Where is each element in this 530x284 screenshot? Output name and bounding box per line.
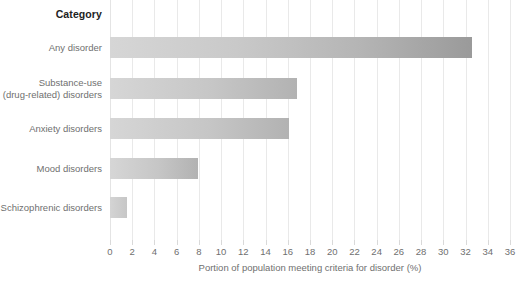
x-axis-tick xyxy=(199,240,200,245)
bar xyxy=(110,197,127,218)
x-axis-tick-label: 26 xyxy=(394,246,405,257)
x-axis-tick-label: 0 xyxy=(107,246,112,257)
y-axis-label-line: Anxiety disorders xyxy=(0,123,102,135)
x-axis-tick-label: 4 xyxy=(152,246,157,257)
x-axis-tick xyxy=(310,240,311,245)
x-axis-tick-label: 10 xyxy=(216,246,227,257)
y-axis-label-line: Mood disorders xyxy=(0,163,102,175)
y-axis-label-line: Substance-use xyxy=(0,77,102,89)
bar xyxy=(110,37,472,58)
x-axis-tick xyxy=(110,240,111,245)
x-axis-tick xyxy=(266,240,267,245)
x-axis-tick-label: 34 xyxy=(482,246,493,257)
x-axis-tick xyxy=(288,240,289,245)
y-axis-label: Any disorder xyxy=(0,42,102,54)
x-axis-tick xyxy=(443,240,444,245)
y-axis-label: Anxiety disorders xyxy=(0,123,102,135)
y-axis-category-labels: Any disorderSubstance-use(drug-related) … xyxy=(0,0,102,240)
x-axis-tick xyxy=(332,240,333,245)
x-axis-tick xyxy=(132,240,133,245)
x-axis-tick-labels: 024681012141618202224262830323436 xyxy=(0,246,530,260)
y-axis-label-line: (drug-related) disorders xyxy=(0,89,102,101)
x-axis-tick-label: 16 xyxy=(282,246,293,257)
x-axis-tick-label: 6 xyxy=(174,246,179,257)
x-axis-tick-label: 30 xyxy=(438,246,449,257)
bar xyxy=(110,118,289,139)
x-axis-tick-label: 28 xyxy=(416,246,427,257)
x-axis-tick xyxy=(421,240,422,245)
x-axis-tick xyxy=(354,240,355,245)
y-axis-label: Substance-use(drug-related) disorders xyxy=(0,77,102,100)
x-axis-tick-label: 12 xyxy=(238,246,249,257)
x-axis-tick-label: 2 xyxy=(130,246,135,257)
x-axis-tick-label: 32 xyxy=(460,246,471,257)
y-axis-label: Schizophrenic disorders xyxy=(0,202,102,214)
x-axis-tick xyxy=(221,240,222,245)
x-axis-tick xyxy=(154,240,155,245)
x-axis-tick-label: 14 xyxy=(260,246,271,257)
bar xyxy=(110,158,198,179)
y-axis-label: Mood disorders xyxy=(0,163,102,175)
x-axis-tick xyxy=(466,240,467,245)
x-axis-tick xyxy=(510,240,511,245)
y-axis-label-line: Any disorder xyxy=(0,42,102,54)
bar-chart: Category Any disorderSubstance-use(drug-… xyxy=(0,0,530,284)
x-axis-tick xyxy=(377,240,378,245)
x-axis-title: Portion of population meeting criteria f… xyxy=(110,262,510,273)
x-axis-tick xyxy=(399,240,400,245)
x-axis-tick-label: 24 xyxy=(371,246,382,257)
x-axis-tick-label: 36 xyxy=(505,246,516,257)
x-axis-tick xyxy=(243,240,244,245)
x-axis-tick-label: 20 xyxy=(327,246,338,257)
bar-series xyxy=(110,0,510,240)
x-axis-tick xyxy=(177,240,178,245)
x-axis-tick xyxy=(488,240,489,245)
x-axis-tick-label: 8 xyxy=(196,246,201,257)
plot-area xyxy=(110,0,510,240)
gridline xyxy=(510,0,511,240)
bar xyxy=(110,78,297,99)
y-axis-label-line: Schizophrenic disorders xyxy=(0,202,102,214)
x-axis-tick-label: 22 xyxy=(349,246,360,257)
x-axis-tick-label: 18 xyxy=(305,246,316,257)
